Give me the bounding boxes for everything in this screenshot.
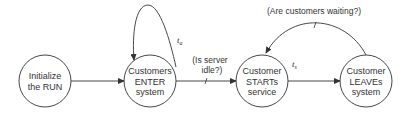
svg-text:system: system xyxy=(352,87,381,97)
node-label: system xyxy=(136,87,165,97)
condition-label: (Are customers waiting?) xyxy=(267,6,361,16)
edge-leave-to-start: (Are customers waiting?) xyxy=(266,6,366,55)
node-label: Customers xyxy=(128,66,172,76)
node-label: Customer xyxy=(242,66,281,76)
node-label: STARTs xyxy=(246,77,279,87)
svg-text:STARTs: STARTs xyxy=(246,77,279,87)
node-label: Initialize xyxy=(29,71,62,81)
delay-label-arrival: ta xyxy=(177,35,183,46)
node-label: ENTER xyxy=(135,77,166,87)
svg-text:system: system xyxy=(136,87,165,97)
svg-text:(Are customers waiting?): (Are customers waiting?) xyxy=(267,6,361,16)
svg-text:(Is server: (Is server xyxy=(192,55,228,65)
svg-text:service: service xyxy=(248,87,277,97)
condition-label: (Is server xyxy=(192,55,228,65)
edge-enter-to-start: (Is server idle?) xyxy=(176,55,236,84)
node-label: the RUN xyxy=(28,82,63,92)
node-customer-starts-service: Customer STARTs service xyxy=(236,55,288,107)
node-label: Customer xyxy=(346,66,385,76)
svg-text:Customer: Customer xyxy=(242,66,281,76)
condition-label: idle?) xyxy=(202,65,223,75)
svg-text:Customer: Customer xyxy=(346,66,385,76)
svg-text:idle?): idle?) xyxy=(202,65,223,75)
edge-start-to-leave: ts xyxy=(288,59,340,81)
node-label: LEAVEs xyxy=(350,77,383,87)
node-customers-enter-system: Customers ENTER system xyxy=(124,55,176,107)
svg-text:Initialize: Initialize xyxy=(29,71,62,81)
node-initialize-run: Initialize the RUN xyxy=(19,55,71,107)
node-label: system xyxy=(352,87,381,97)
svg-text:Customers: Customers xyxy=(128,66,172,76)
node-label: service xyxy=(248,87,277,97)
delay-label-service: ts xyxy=(292,59,298,70)
svg-text:the RUN: the RUN xyxy=(28,82,63,92)
node-customer-leaves-system: Customer LEAVEs system xyxy=(340,55,392,107)
svg-text:ENTER: ENTER xyxy=(135,77,166,87)
event-graph-diagram: Initialize the RUN Customers ENTER syste… xyxy=(0,0,418,121)
svg-text:LEAVEs: LEAVEs xyxy=(350,77,383,87)
